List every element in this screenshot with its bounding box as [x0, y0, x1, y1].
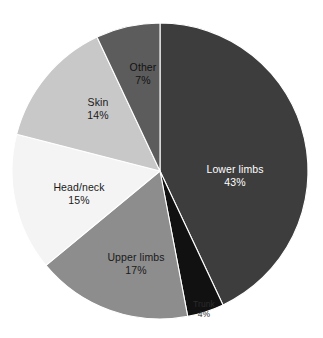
pie-slice-label-name: Trunk — [193, 299, 216, 309]
pie-slice-label-name: Upper limbs — [107, 251, 164, 263]
pie-slice-label-value: 15% — [68, 194, 89, 206]
pie-chart-svg: Lower limbs43%Trunk4%Upper limbs17%Head/… — [0, 0, 323, 338]
pie-chart-figure: Lower limbs43%Trunk4%Upper limbs17%Head/… — [0, 0, 323, 338]
pie-slice-label-name: Head/neck — [53, 181, 105, 193]
pie-slice-label-name: Skin — [88, 96, 109, 108]
pie-slice-label-name: Other — [130, 61, 157, 73]
pie-slice-label-value: 14% — [87, 109, 108, 121]
pie-slice-label-value: 4% — [198, 309, 211, 319]
pie-slices-group — [12, 23, 308, 319]
pie-slice-label-name: Lower limbs — [206, 163, 263, 175]
pie-slice-label-value: 17% — [125, 264, 146, 276]
pie-slice-label: Skin14% — [87, 96, 108, 121]
pie-slice-label-value: 7% — [135, 74, 150, 86]
pie-slice-label-value: 43% — [224, 176, 245, 188]
